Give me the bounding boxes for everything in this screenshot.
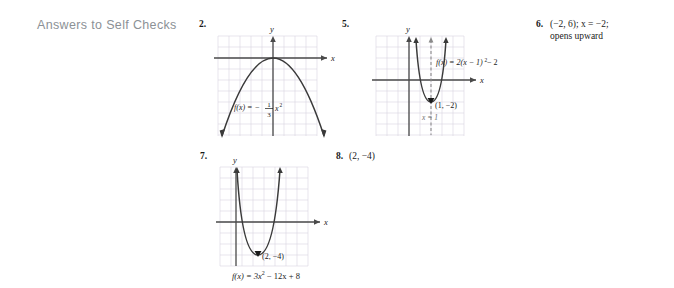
grid-lines <box>218 36 317 136</box>
fraction-denominator: 3 <box>267 111 271 119</box>
x-axis-label: x <box>330 53 335 63</box>
problem-number-5: 5. <box>342 19 349 29</box>
parabola-curve <box>237 170 280 255</box>
y-axis-arrow <box>270 36 276 42</box>
graph-2-svg: x y f(x) = − 1 3 x 2 <box>214 22 336 140</box>
problem-number-6: 6. <box>536 19 543 29</box>
curve-arrow-right <box>443 37 448 43</box>
curve-arrow-right <box>321 129 326 138</box>
curve-arrow-right <box>277 167 282 173</box>
equation-exponent: 2 <box>280 102 283 108</box>
axes <box>214 38 327 136</box>
x-axis-label: x <box>323 217 328 227</box>
graph-5-svg: x y x = 1 (1, −2) f(x) = 2(x − 1) 2 − 2 <box>372 22 512 140</box>
curve-arrow-left <box>413 37 418 43</box>
caption-tail: − 12x + 8 <box>265 271 300 281</box>
problem-6-line2: opens upward <box>550 30 603 43</box>
problem-6-line1: (−2, 6); x = −2; <box>550 18 609 31</box>
axis-of-symmetry-arrow <box>429 37 434 43</box>
equation-tail: − 2 <box>487 58 498 67</box>
caption-head: f(x) = 3x <box>232 271 262 281</box>
x-axis-arrow <box>470 77 476 83</box>
problem-number-7: 7. <box>200 151 207 161</box>
y-axis-arrow <box>406 36 412 42</box>
answers-page: Answers to Self Checks 2. <box>0 0 674 288</box>
graph-7-svg: x y (2, −4) <box>216 154 346 269</box>
curve-arrow-left <box>220 129 225 138</box>
vertex-label: (2, −4) <box>262 252 284 261</box>
graph-7-equation-caption: f(x) = 3x2 − 12x + 8 <box>232 270 300 281</box>
vertex-label: (1, −2) <box>435 101 457 110</box>
page-title: Answers to Self Checks <box>37 18 177 32</box>
equation-head: f(x) = 2(x − 1) <box>436 58 483 67</box>
equation-fraction: 1 3 <box>265 101 273 119</box>
grid-lines <box>376 36 464 136</box>
graph-7: x y (2, −4) <box>216 154 346 269</box>
y-axis-label: y <box>269 24 274 34</box>
x-axis-arrow <box>321 55 327 61</box>
x-axis-arrow <box>314 219 320 225</box>
graph-2: x y f(x) = − 1 3 x 2 <box>214 22 336 140</box>
problem-number-2: 2. <box>199 19 206 29</box>
problem-8-line1: (2, −4) <box>349 150 375 163</box>
problem-number-8: 8. <box>336 151 343 161</box>
graph-5: x y x = 1 (1, −2) f(x) = 2(x − 1) 2 − 2 <box>372 22 512 140</box>
equation-label-head: f(x) = − <box>234 103 260 112</box>
equation-variable: x <box>274 104 279 113</box>
x-axis-label: x <box>479 75 484 85</box>
fraction-numerator: 1 <box>267 101 271 109</box>
y-axis-label: y <box>232 155 237 165</box>
y-axis-label: y <box>405 24 410 34</box>
axis-of-symmetry-label: x = 1 <box>421 113 438 122</box>
